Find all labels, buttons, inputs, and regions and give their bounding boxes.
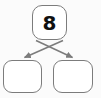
part-box-right[interactable] bbox=[53, 60, 93, 93]
connector-line-right bbox=[36, 41, 73, 58]
part-box-left[interactable] bbox=[3, 60, 42, 93]
connector-line-left bbox=[25, 41, 64, 58]
whole-value: 8 bbox=[43, 13, 57, 33]
number-bond-diagram: 8 bbox=[0, 0, 101, 98]
whole-box[interactable]: 8 bbox=[32, 5, 67, 40]
